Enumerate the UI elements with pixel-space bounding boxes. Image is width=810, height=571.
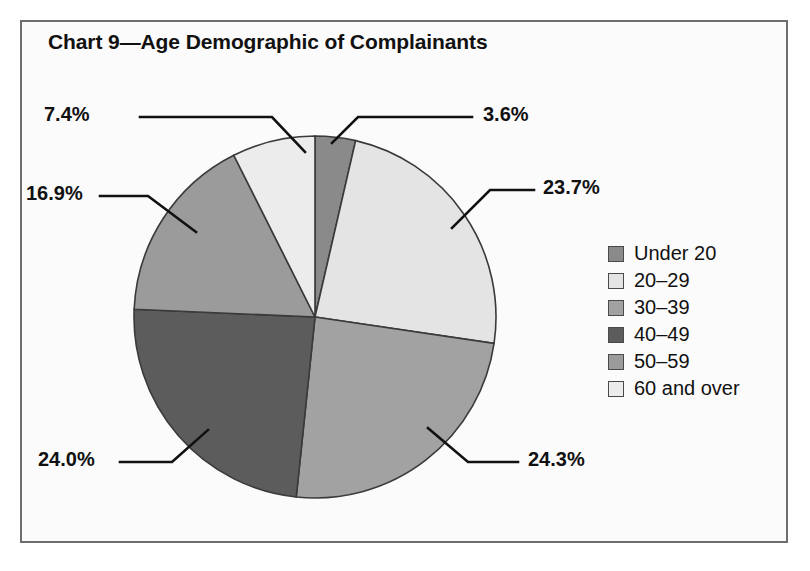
legend-label-20-29: 20–29	[634, 269, 690, 292]
legend-swatch-under-20	[608, 246, 624, 262]
legend-label-under-20: Under 20	[634, 242, 716, 265]
legend-item-50-59[interactable]: 50–59	[608, 348, 778, 375]
pct-label-30-39: 24.3%	[528, 448, 585, 471]
pct-label-under-20: 3.6%	[483, 103, 529, 126]
legend-item-30-39[interactable]: 30–39	[608, 294, 778, 321]
legend-swatch-40-49	[608, 327, 624, 343]
legend-item-60-and-over[interactable]: 60 and over	[608, 375, 778, 402]
pct-label-20-29: 23.7%	[543, 176, 600, 199]
legend-item-20-29[interactable]: 20–29	[608, 267, 778, 294]
pct-label-50-59: 16.9%	[26, 182, 83, 205]
legend-label-50-59: 50–59	[634, 350, 690, 373]
legend-item-under-20[interactable]: Under 20	[608, 240, 778, 267]
pct-label-60-and-over: 7.4%	[44, 103, 90, 126]
legend-item-40-49[interactable]: 40–49	[608, 321, 778, 348]
chart-title: Chart 9—Age Demographic of Complainants	[48, 30, 488, 54]
legend-swatch-20-29	[608, 273, 624, 289]
legend-swatch-50-59	[608, 354, 624, 370]
legend-label-40-49: 40–49	[634, 323, 690, 346]
legend-swatch-30-39	[608, 300, 624, 316]
legend-label-30-39: 30–39	[634, 296, 690, 319]
pct-label-40-49: 24.0%	[38, 448, 95, 471]
legend-label-60-and-over: 60 and over	[634, 377, 740, 400]
legend-swatch-60-and-over	[608, 381, 624, 397]
legend: Under 2020–2930–3940–4950–5960 and over	[608, 240, 778, 402]
